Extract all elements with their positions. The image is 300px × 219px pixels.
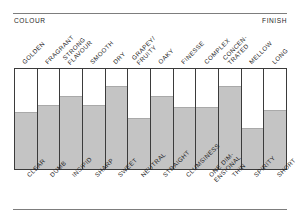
bar-cell[interactable]	[128, 69, 151, 169]
bar-cell[interactable]	[15, 69, 38, 169]
bar-fill	[60, 96, 82, 169]
top-label-oaky[interactable]: OAKY	[158, 48, 176, 66]
colour-axis-caption: COLOUR	[14, 17, 46, 24]
label-line-1: FINESSE	[180, 40, 206, 66]
top-label-long[interactable]: LONG	[271, 48, 289, 66]
label-line-1: GOLDEN	[20, 40, 45, 65]
bottom-divider-rule	[13, 209, 287, 210]
bar-cell[interactable]	[106, 69, 129, 169]
label-line-1: DRY	[111, 51, 126, 66]
top-label-grapey[interactable]: GRAPEY/FRUITY	[130, 35, 161, 66]
bar-cell[interactable]	[38, 69, 61, 169]
top-divider-rule	[13, 13, 287, 14]
bar-cell[interactable]	[60, 69, 83, 169]
top-label-dry[interactable]: DRY	[112, 51, 127, 66]
tasting-profile-bar-chart	[14, 68, 287, 170]
top-label-golden[interactable]: GOLDEN	[21, 41, 46, 66]
bar-cell[interactable]	[242, 69, 265, 169]
bar-fill	[15, 112, 37, 169]
label-line-1: LONG	[271, 47, 290, 66]
top-label-finesse[interactable]: FINESSE	[180, 40, 206, 66]
top-label-smooth[interactable]: SMOOTH	[89, 40, 115, 66]
bar-cell[interactable]	[83, 69, 106, 169]
bar-fill	[242, 128, 264, 169]
finish-axis-caption: FINISH	[262, 17, 287, 24]
bar-cell[interactable]	[264, 69, 286, 169]
label-line-1: OAKY	[157, 47, 175, 65]
